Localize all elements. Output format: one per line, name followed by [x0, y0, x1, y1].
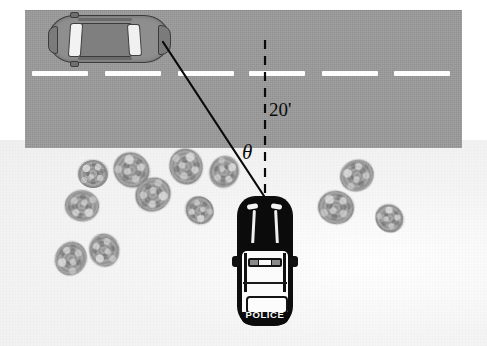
diagram-canvas: POLICE 20' θ — [0, 0, 487, 346]
distance-label: 20' — [269, 99, 291, 121]
sight-line — [163, 42, 264, 196]
geometry-overlay — [0, 0, 487, 346]
angle-label: θ — [242, 140, 252, 165]
